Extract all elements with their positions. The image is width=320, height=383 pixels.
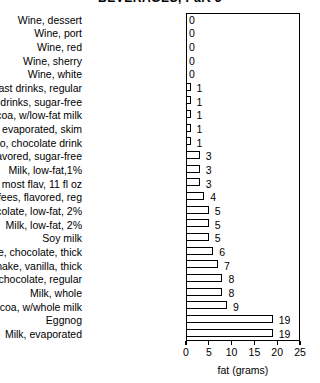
bar-row: Wine, port0 <box>0 27 320 41</box>
bar-value-label: 0 <box>189 69 195 80</box>
bar-container: 1 <box>186 136 300 150</box>
bar-container: 1 <box>186 122 300 136</box>
bar-value-label: 1 <box>197 96 203 107</box>
bar-value-label: 0 <box>189 42 195 53</box>
bar-row: Wine, dessert0 <box>0 13 320 27</box>
category-label: Wine, sherry <box>23 55 82 66</box>
bar-container: 0 <box>186 13 300 27</box>
bar-container: 19 <box>186 327 300 341</box>
x-tick-label: 10 <box>226 346 238 358</box>
bar-value-label: 0 <box>189 55 195 66</box>
bar-value-label: 3 <box>206 165 212 176</box>
bar-container: 0 <box>186 54 300 68</box>
bar-container: 19 <box>186 314 300 328</box>
x-tick <box>208 341 209 345</box>
bar-row: Breakfast drinks, sugar-free1 <box>0 95 320 109</box>
bar-value-label: 19 <box>279 315 291 326</box>
bar-value-label: 19 <box>279 329 291 340</box>
bar-container: 0 <box>186 40 300 54</box>
bar <box>186 137 191 145</box>
bar-value-label: 1 <box>197 110 203 121</box>
bar <box>186 192 204 200</box>
bar-value-label: 8 <box>228 274 234 285</box>
bar <box>186 110 191 118</box>
category-label: Coffees, flavored, sugar-free <box>0 151 82 162</box>
bar <box>186 151 200 159</box>
bar-value-label: 0 <box>189 28 195 39</box>
bar-row: Milk, low-fat, 2%5 <box>0 218 320 232</box>
bar-container: 8 <box>186 273 300 287</box>
x-tick <box>299 341 300 345</box>
category-label: Wine, white <box>28 69 82 80</box>
bar-value-label: 5 <box>215 233 221 244</box>
bar-row: Coffees, flavored, reg4 <box>0 191 320 205</box>
x-tick <box>231 341 232 345</box>
category-label: Milk, chocolate, low-fat, 2% <box>0 206 82 217</box>
x-axis: 0510152025 <box>186 341 300 383</box>
bar-container: 1 <box>186 81 300 95</box>
bar <box>186 219 209 227</box>
bar-row: Shake, vanilla, thick7 <box>0 259 320 273</box>
bar <box>186 301 227 309</box>
bar <box>186 274 222 282</box>
bar-row: Soy milk5 <box>0 232 320 246</box>
bar-value-label: 8 <box>228 288 234 299</box>
bar-container: 8 <box>186 286 300 300</box>
bar-row: Cocoa, w/low-fat milk1 <box>0 109 320 123</box>
bar-container: 1 <box>186 95 300 109</box>
bar-value-label: 7 <box>224 260 230 271</box>
category-label: Milk, evaporated <box>5 329 82 340</box>
bar <box>186 247 213 255</box>
bar-value-label: 3 <box>206 178 212 189</box>
category-label: Milk, chocolate, regular <box>0 274 82 285</box>
bar-value-label: 3 <box>206 151 212 162</box>
x-tick <box>277 341 278 345</box>
bar-row: Milk, low-fat,1%3 <box>0 163 320 177</box>
bar-container: 5 <box>186 232 300 246</box>
category-label: Cocoa, w/low-fat milk <box>0 110 82 121</box>
bar-value-label: 5 <box>215 219 221 230</box>
x-tick-label: 20 <box>271 346 283 358</box>
category-label: Slim Fast, most flav, 11 fl oz <box>0 178 82 189</box>
category-label: Milk, evaporated, skim <box>0 124 82 135</box>
x-tick <box>254 341 255 345</box>
bar <box>186 178 200 186</box>
bar-row: Wine, sherry0 <box>0 54 320 68</box>
category-label: Wine, red <box>37 42 82 53</box>
category-label: Soy milk <box>42 233 82 244</box>
bar-row: Shake, chocolate, thick6 <box>0 245 320 259</box>
x-tick-label: 15 <box>249 346 261 358</box>
bar <box>186 96 191 104</box>
chart-title: BEVERAGES, Part 3 <box>0 0 320 5</box>
bar-rows: Wine, dessert0Wine, port0Wine, red0Wine,… <box>0 13 320 341</box>
bar-row: Wine, white0 <box>0 68 320 82</box>
bar-container: 9 <box>186 300 300 314</box>
bar-value-label: 1 <box>197 137 203 148</box>
bar-value-label: 9 <box>233 301 239 312</box>
bar-row: Breakfast drinks, regular1 <box>0 81 320 95</box>
category-label: Yoo-Hoo, chocolate drink <box>0 137 82 148</box>
category-label: Wine, port <box>34 28 82 39</box>
bar-container: 5 <box>186 204 300 218</box>
bar-value-label: 0 <box>189 14 195 25</box>
bar-row: Slim Fast, most flav, 11 fl oz3 <box>0 177 320 191</box>
bar-row: Eggnog19 <box>0 314 320 328</box>
bar-row: Milk, chocolate, regular8 <box>0 273 320 287</box>
category-label: Milk, low-fat, 2% <box>6 219 82 230</box>
bar-container: 6 <box>186 245 300 259</box>
x-tick-label: 25 <box>294 346 306 358</box>
bar-row: Wine, red0 <box>0 40 320 54</box>
bar-value-label: 4 <box>210 192 216 203</box>
bar-value-label: 1 <box>197 83 203 94</box>
bar-container: 4 <box>186 191 300 205</box>
bar <box>186 233 209 241</box>
bar-row: Coffees, flavored, sugar-free3 <box>0 150 320 164</box>
bar-container: 3 <box>186 163 300 177</box>
bar-container: 7 <box>186 259 300 273</box>
category-label: Milk, whole <box>30 288 82 299</box>
x-tick-label: 5 <box>206 346 212 358</box>
bar <box>186 206 209 214</box>
bar-container: 5 <box>186 218 300 232</box>
bar <box>186 165 200 173</box>
category-label: Breakfast drinks, regular <box>0 83 82 94</box>
